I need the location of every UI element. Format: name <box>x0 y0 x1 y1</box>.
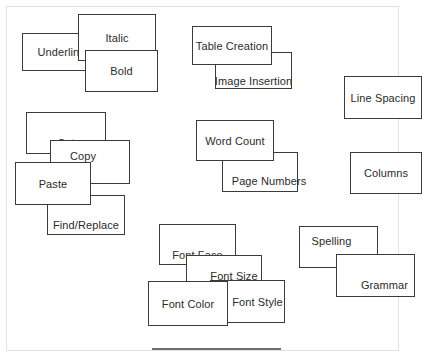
diagram-canvas: Underline Italic Bold Image Insertion Ta… <box>0 0 430 363</box>
box-label-italic: Italic <box>105 32 128 44</box>
box-label-word-count: Word Count <box>205 135 265 147</box>
box-label-grammar: Grammar <box>361 279 408 291</box>
box-line-spacing[interactable]: Line Spacing <box>344 76 422 119</box>
box-table-creation[interactable]: Table Creation <box>192 26 272 65</box>
box-label-line-spacing: Line Spacing <box>351 92 416 104</box>
box-word-count[interactable]: Word Count <box>196 120 274 161</box>
box-columns[interactable]: Columns <box>350 152 422 194</box>
box-label-font-color: Font Color <box>162 298 214 310</box>
bottom-divider-rule <box>152 348 281 350</box>
box-label-table-creation: Table Creation <box>196 40 268 52</box>
box-label-spelling: Spelling <box>312 235 352 247</box>
box-label-page-numbers: Page Numbers <box>232 175 307 187</box>
box-grammar[interactable]: Grammar <box>336 254 415 297</box>
box-label-columns: Columns <box>364 167 408 179</box>
box-label-paste: Paste <box>39 178 68 190</box>
box-font-color[interactable]: Font Color <box>148 281 228 326</box>
box-label-copy: Copy <box>70 150 96 162</box>
box-paste[interactable]: Paste <box>15 162 91 205</box>
box-bold[interactable]: Bold <box>85 50 158 92</box>
box-label-bold: Bold <box>110 65 132 77</box>
box-label-font-style: Font Style <box>232 296 283 308</box>
box-label-image-insertion: Image Insertion <box>215 75 292 87</box>
box-label-find-replace: Find/Replace <box>53 219 119 231</box>
